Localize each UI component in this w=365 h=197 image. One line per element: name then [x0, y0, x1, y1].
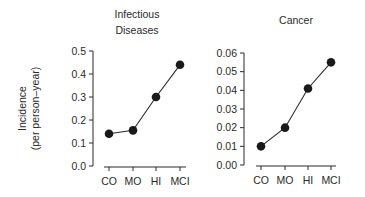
- data-point: [281, 123, 290, 132]
- y-axis-label: Incidence: [16, 86, 28, 131]
- panel-title: Cancer: [279, 14, 313, 26]
- data-point: [129, 126, 138, 135]
- x-tick-label: MO: [277, 174, 294, 186]
- y-tick-label: 0.3: [71, 91, 86, 103]
- data-point: [152, 93, 161, 102]
- y-tick-label: 0.02: [217, 121, 238, 133]
- data-line: [261, 62, 331, 146]
- x-tick-label: HI: [151, 175, 162, 187]
- chart-figure: InfectiousDiseases0.00.10.20.30.40.5COMO…: [0, 0, 365, 197]
- y-tick-label: 0.5: [71, 45, 86, 57]
- data-point: [257, 142, 266, 151]
- y-tick-label: 0.0: [71, 160, 86, 172]
- data-point: [304, 84, 313, 93]
- panel-cancer: Cancer0.000.010.020.030.040.050.06COMOHI…: [217, 14, 341, 186]
- y-tick-label: 0.01: [217, 140, 238, 152]
- y-tick-label: 0.04: [217, 84, 238, 96]
- data-line: [109, 65, 180, 134]
- x-tick-label: HI: [303, 174, 314, 186]
- panel-title: Diseases: [115, 24, 158, 36]
- y-tick-label: 0.00: [217, 159, 238, 171]
- y-tick-label: 0.1: [71, 137, 86, 149]
- y-tick-label: 0.03: [217, 103, 238, 115]
- data-point: [105, 130, 114, 139]
- y-axis-label: (per person–year): [29, 67, 41, 150]
- x-tick-label: CO: [101, 175, 117, 187]
- panel-infectious-diseases: InfectiousDiseases0.00.10.20.30.40.5COMO…: [16, 8, 190, 187]
- panel-title: Infectious: [115, 8, 160, 20]
- x-tick-label: MCI: [321, 174, 340, 186]
- x-tick-label: CO: [253, 174, 269, 186]
- y-tick-label: 0.4: [71, 68, 86, 80]
- y-tick-label: 0.2: [71, 114, 86, 126]
- x-tick-label: MO: [125, 175, 142, 187]
- data-point: [327, 58, 336, 67]
- data-point: [176, 61, 185, 70]
- y-tick-label: 0.05: [217, 65, 238, 77]
- y-tick-label: 0.06: [217, 47, 238, 59]
- x-tick-label: MCI: [170, 175, 189, 187]
